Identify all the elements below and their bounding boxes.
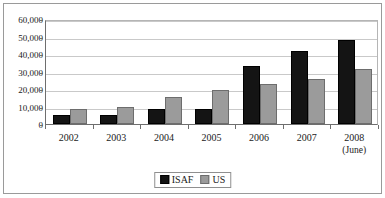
x-axis-tick-mark	[140, 125, 141, 129]
bar-us-2005	[212, 90, 229, 124]
bar-group	[94, 21, 142, 124]
x-axis-label-2008: 2008(June)	[330, 131, 378, 157]
x-axis-tick-mark	[45, 125, 46, 129]
y-axis-tick-label: 50,000	[1, 34, 43, 43]
x-axis-ticks	[45, 125, 378, 130]
x-axis-label-2005: 2005	[188, 131, 236, 144]
bar-isaf-2008	[338, 40, 355, 124]
x-axis-label-2002: 2002	[45, 131, 93, 144]
y-axis-tick-mark	[40, 125, 43, 126]
bar-us-2003	[117, 107, 134, 124]
x-axis-sublabel-text: (June)	[330, 144, 378, 157]
bar-isaf-2004	[148, 109, 165, 124]
x-axis-label-text: 2004	[154, 132, 174, 143]
x-axis-label-text: 2006	[249, 132, 269, 143]
y-axis-tick-mark	[40, 73, 43, 74]
legend-item-us: US	[200, 174, 225, 185]
y-axis-tick-mark	[40, 55, 43, 56]
x-axis-tick-mark	[378, 125, 379, 129]
bar-group	[331, 21, 379, 124]
legend-swatch-us-icon	[200, 175, 209, 184]
x-axis-tick-mark	[188, 125, 189, 129]
bar-group	[46, 21, 94, 124]
x-axis-label-2006: 2006	[235, 131, 283, 144]
bar-us-2007	[308, 79, 325, 124]
plot-area	[45, 20, 378, 125]
y-axis-tick-label: 10,000	[1, 104, 43, 113]
x-axis-label-2004: 2004	[140, 131, 188, 144]
x-axis-label-text: 2003	[106, 132, 126, 143]
y-axis-tick-mark	[40, 90, 43, 91]
x-axis-tick-mark	[283, 125, 284, 129]
x-axis-label-text: 2002	[59, 132, 79, 143]
bar-isaf-2007	[291, 51, 308, 124]
x-axis-label-text: 2008	[344, 132, 364, 143]
bar-us-2002	[70, 109, 87, 124]
legend-label: ISAF	[172, 174, 194, 185]
x-axis-label-text: 2007	[297, 132, 317, 143]
y-axis-tick-label: 60,000	[1, 16, 43, 25]
bar-isaf-2002	[53, 115, 70, 124]
x-axis-labels: 2002200320042005200620072008(June)	[45, 131, 378, 167]
x-axis-label-2007: 2007	[283, 131, 331, 144]
bar-group	[141, 21, 189, 124]
y-axis-tick-label: 20,000	[1, 86, 43, 95]
y-axis: 60,00050,00040,00030,00020,00010,0000	[0, 20, 43, 125]
y-axis-tick-label: 30,000	[1, 69, 43, 78]
bar-isaf-2005	[195, 109, 212, 124]
bar-us-2008	[355, 69, 372, 124]
bar-us-2004	[165, 97, 182, 124]
bar-group	[189, 21, 237, 124]
y-axis-tick-mark	[40, 20, 43, 21]
y-axis-tick-label: 0	[1, 121, 43, 130]
x-axis-tick-mark	[235, 125, 236, 129]
legend-swatch-isaf-icon	[160, 175, 169, 184]
y-axis-tick-mark	[40, 108, 43, 109]
legend-item-isaf: ISAF	[160, 174, 194, 185]
bar-group	[236, 21, 284, 124]
legend-label: US	[212, 174, 225, 185]
x-axis-label-2003: 2003	[93, 131, 141, 144]
bar-chart: 60,00050,00040,00030,00020,00010,0000 20…	[0, 0, 385, 198]
chart-legend: ISAFUS	[154, 172, 231, 188]
y-axis-tick-mark	[40, 38, 43, 39]
bar-group	[284, 21, 332, 124]
y-axis-tick-label: 40,000	[1, 51, 43, 60]
x-axis-label-text: 2005	[201, 132, 221, 143]
bar-us-2006	[260, 84, 277, 124]
bar-isaf-2003	[100, 115, 117, 124]
x-axis-tick-mark	[330, 125, 331, 129]
x-axis-tick-mark	[93, 125, 94, 129]
bar-isaf-2006	[243, 66, 260, 124]
